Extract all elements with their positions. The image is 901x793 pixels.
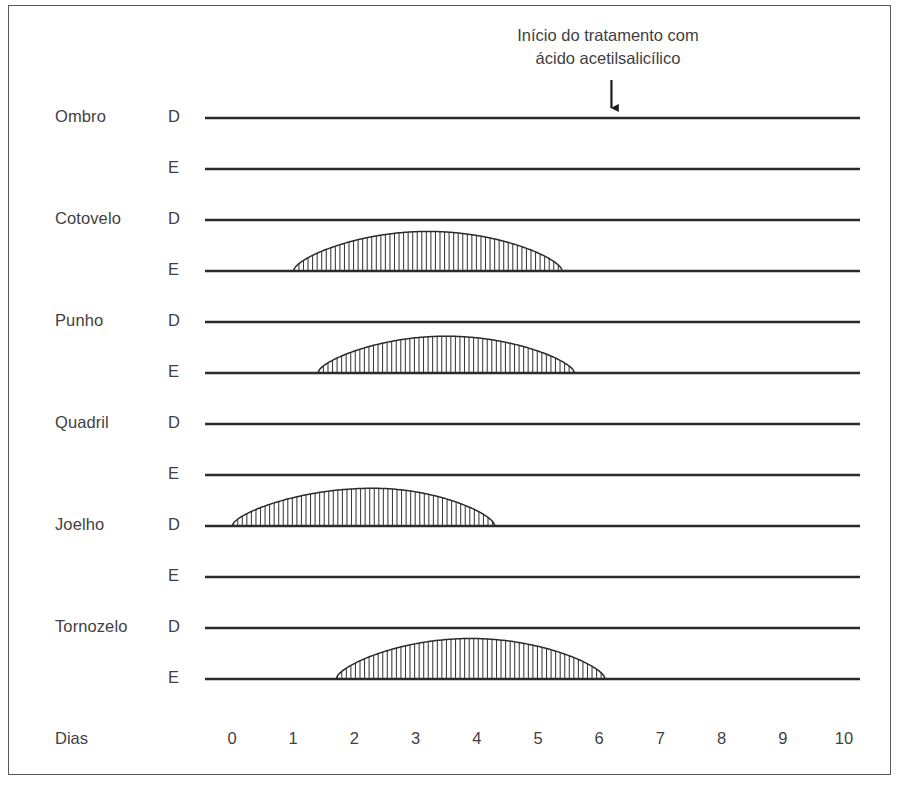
joint-timeline-chart [0,0,901,793]
swelling-episode-cotovelo-e [293,231,562,271]
figure-caption-strip [9,782,892,793]
side-label-tornozelo-e: E [168,668,188,687]
joint-label-quadril: Quadril [55,413,109,432]
swelling-episode-tornozelo-e [336,639,605,679]
x-tick-1: 1 [273,729,313,748]
x-tick-10: 10 [824,729,864,748]
side-label-ombro-e: E [168,158,188,177]
x-tick-2: 2 [334,729,374,748]
joint-label-tornozelo: Tornozelo [55,617,127,636]
side-label-punho-e: E [168,362,188,381]
swelling-episode-punho-e [318,336,575,373]
x-tick-3: 3 [396,729,436,748]
swelling-episode-joelho-d [232,488,495,526]
side-label-joelho-e: E [168,566,188,585]
side-label-cotovelo-d: D [168,209,188,228]
joint-label-joelho: Joelho [55,515,104,534]
joint-label-cotovelo: Cotovelo [55,209,121,228]
axis-title: Dias [55,729,88,748]
swelling-episode-group [232,231,605,679]
side-label-quadril-e: E [168,464,188,483]
side-label-cotovelo-e: E [168,260,188,279]
side-label-quadril-d: D [168,413,188,432]
side-label-joelho-d: D [168,515,188,534]
x-tick-9: 9 [763,729,803,748]
x-tick-4: 4 [457,729,497,748]
joint-label-ombro: Ombro [55,107,106,126]
x-tick-6: 6 [579,729,619,748]
baseline-group [205,118,860,679]
side-label-ombro-d: D [168,107,188,126]
side-label-tornozelo-d: D [168,617,188,636]
joint-label-punho: Punho [55,311,103,330]
side-label-punho-d: D [168,311,188,330]
x-tick-7: 7 [640,729,680,748]
x-tick-5: 5 [518,729,558,748]
x-tick-0: 0 [212,729,252,748]
x-tick-8: 8 [702,729,742,748]
